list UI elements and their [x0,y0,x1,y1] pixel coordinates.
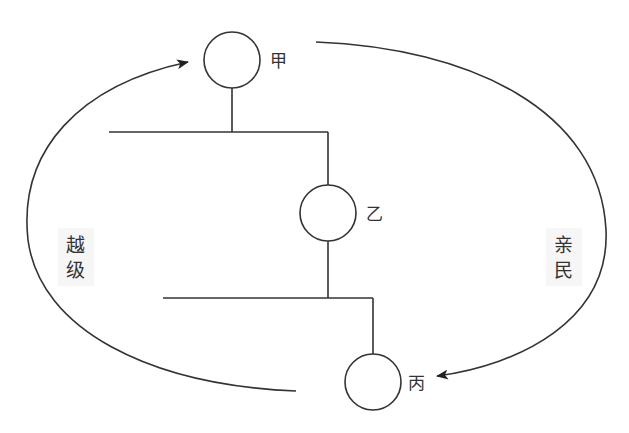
arc-label-qinmin-2: 民 [554,259,573,281]
arc-qinmin-path [316,42,606,376]
arc-qinmin: 亲 民 [316,42,606,376]
arc-label-qinmin-1: 亲 [554,234,573,256]
diagram-canvas: 甲 乙 丙 越 级 亲 民 [0,0,629,433]
arc-yueji-path [27,62,296,391]
node-label-jia: 甲 [270,51,287,71]
node-label-yi: 乙 [366,204,383,224]
node-circle-jia [204,32,260,88]
arc-label-yueji-2: 级 [66,259,85,281]
node-label-bing: 丙 [408,373,425,393]
node-circle-yi [300,185,356,241]
node-yi: 乙 [300,185,383,241]
arc-yueji: 越 级 [27,62,296,391]
node-bing: 丙 [345,354,425,410]
arc-label-yueji-1: 越 [66,234,85,256]
node-jia: 甲 [204,32,287,88]
hierarchy-diagram: 甲 乙 丙 越 级 亲 民 [0,0,629,433]
node-circle-bing [345,354,401,410]
